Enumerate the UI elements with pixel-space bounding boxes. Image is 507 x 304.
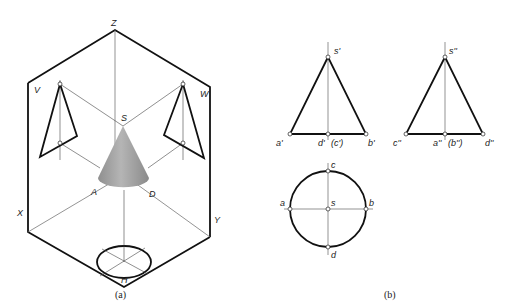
label-c-double-prime: c''	[393, 138, 401, 148]
label-s-double-prime: s''	[449, 46, 457, 56]
label-d-double-prime: d''	[485, 138, 494, 148]
label-a: a	[280, 198, 285, 208]
label-s-prime: s'	[334, 46, 341, 56]
side-view: s'' c'' a'' (b'') d''	[393, 42, 494, 148]
figure-a-isometric: Z V W S A D X Y H (a)	[16, 18, 221, 301]
label-b-prime: b'	[368, 138, 375, 148]
v-projection-triangle	[40, 84, 77, 157]
label-b: b	[369, 198, 374, 208]
label-x: X	[16, 208, 24, 218]
label-a: A	[90, 187, 97, 197]
label-w: W	[200, 89, 210, 99]
caption-a: (a)	[115, 289, 126, 301]
label-b-double-prime-hidden: (b'')	[448, 138, 462, 148]
label-d-prime: d'	[318, 138, 325, 148]
label-y: Y	[214, 215, 221, 225]
label-h: H	[121, 275, 128, 285]
caption-b: (b)	[384, 289, 396, 301]
w-projection-triangle	[164, 84, 204, 158]
front-view: s' a' d' (c') b'	[276, 42, 375, 148]
label-c: c	[331, 160, 336, 170]
label-d: D	[149, 189, 156, 199]
label-s: S	[121, 113, 127, 123]
label-v: V	[34, 85, 41, 95]
top-view: c a s b d	[280, 160, 374, 260]
cone-solid	[98, 126, 149, 187]
cone-projection-figure: Z V W S A D X Y H (a) s' a' d' (c') b'	[0, 0, 507, 304]
label-z: Z	[110, 18, 117, 28]
label-c-prime-hidden: (c')	[331, 138, 343, 148]
label-a-prime: a'	[276, 138, 283, 148]
label-d: d	[331, 250, 337, 260]
label-a-double-prime: a''	[433, 138, 442, 148]
label-s: s	[331, 198, 336, 208]
figure-b-orthographic: s' a' d' (c') b' s'' c'' a'' (b'') d''	[276, 42, 494, 301]
